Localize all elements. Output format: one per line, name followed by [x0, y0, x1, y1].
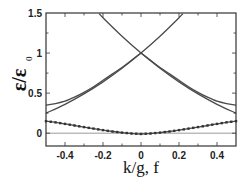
data-marker [164, 131, 166, 133]
data-marker [130, 132, 132, 134]
data-marker [178, 129, 180, 131]
y-axis-label-subscript: 0 [24, 56, 34, 61]
y-tick-label: 1.5 [28, 8, 42, 19]
data-marker [140, 133, 142, 135]
data-marker [102, 129, 104, 131]
data-marker [159, 131, 161, 133]
data-marker [135, 133, 137, 135]
data-marker [230, 121, 232, 123]
data-marker [50, 121, 52, 123]
y-tick-label: 0 [36, 128, 42, 139]
data-marker [88, 127, 90, 129]
data-marker [197, 126, 199, 128]
data-marker [116, 131, 118, 133]
x-axis-label: k/g, f [123, 158, 159, 177]
data-marker [173, 130, 175, 132]
series-group [45, 14, 237, 135]
data-marker [64, 123, 66, 125]
data-marker [221, 122, 223, 124]
data-marker [126, 132, 128, 134]
data-marker [69, 123, 71, 125]
data-marker [149, 132, 151, 134]
data-marker [73, 124, 75, 126]
data-marker [202, 125, 204, 127]
data-marker [216, 123, 218, 125]
data-marker [121, 131, 123, 133]
data-marker [192, 127, 194, 129]
data-marker [78, 125, 80, 127]
data-marker [168, 130, 170, 132]
x-tick-label: 0.4 [210, 150, 224, 161]
data-marker [183, 128, 185, 130]
data-marker [225, 121, 227, 123]
y-tick-label: 1 [36, 48, 42, 59]
data-marker [154, 132, 156, 134]
series-1 [46, 53, 141, 105]
data-marker [54, 121, 56, 123]
x-tick-label: 0.2 [172, 150, 186, 161]
y-axis-label: ε/ε 0 [8, 56, 34, 91]
data-marker [145, 133, 147, 135]
data-marker [111, 130, 113, 132]
data-marker [92, 127, 94, 129]
data-marker [107, 130, 109, 132]
y-axis-label-main: ε/ε [8, 68, 30, 91]
band-structure-chart: -0.4-0.200.20.4 00.511.5 k/g, f ε/ε 0 [0, 0, 251, 188]
data-marker [187, 127, 189, 129]
series-2 [141, 53, 236, 105]
x-tick-label: -0.4 [56, 150, 74, 161]
data-marker [206, 124, 208, 126]
data-marker [211, 123, 213, 125]
data-marker [97, 128, 99, 130]
y-tick-labels: 00.511.5 [28, 8, 42, 139]
data-marker [83, 126, 85, 128]
y-tick-label: 0.5 [28, 88, 42, 99]
data-marker [59, 122, 61, 124]
x-tick-label: -0.2 [94, 150, 112, 161]
